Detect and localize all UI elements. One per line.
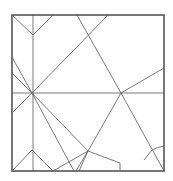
crease-line bbox=[12, 93, 32, 113]
crease-line bbox=[32, 150, 53, 171]
crease-line bbox=[121, 93, 164, 171]
crease-line bbox=[12, 15, 33, 35]
crease-line bbox=[32, 15, 108, 93]
crease-line bbox=[53, 151, 88, 171]
crease-line bbox=[32, 93, 74, 171]
crease-line bbox=[32, 93, 88, 151]
crease-line bbox=[121, 68, 164, 93]
crease-arc bbox=[152, 146, 164, 150]
crease-line bbox=[12, 150, 32, 171]
crease-line bbox=[12, 57, 32, 93]
crease-arcs bbox=[152, 146, 164, 150]
crease-line bbox=[88, 151, 120, 163]
crease-line bbox=[88, 93, 121, 151]
crease-pattern-diagram bbox=[0, 0, 173, 181]
crease-line bbox=[77, 15, 121, 93]
crease-line bbox=[33, 15, 53, 35]
crease-lines bbox=[12, 15, 164, 171]
crease-line bbox=[144, 150, 152, 160]
crease-line bbox=[12, 73, 32, 93]
